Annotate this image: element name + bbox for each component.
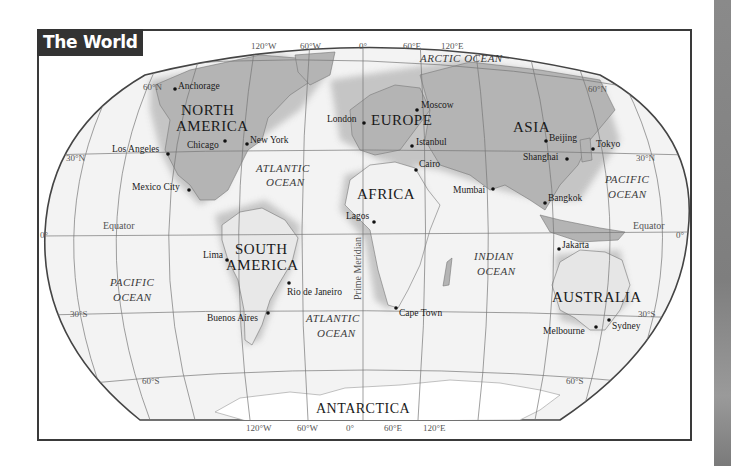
city-dot-cape-town — [394, 306, 398, 310]
equator-label-left: Equator — [103, 220, 135, 231]
lat-label-30n-right: 30°N — [636, 153, 656, 163]
city-label-new-york: New York — [250, 135, 289, 145]
city-label-shanghai: Shanghai — [523, 152, 559, 162]
city-dot-new-york — [245, 142, 249, 146]
city-dot-los-angeles — [166, 152, 170, 156]
city-label-lima: Lima — [203, 250, 224, 260]
city-label-chicago: Chicago — [187, 140, 219, 150]
city-label-sydney: Sydney — [612, 321, 641, 331]
lat-label-0-left: 0° — [40, 230, 49, 240]
city-dot-london — [362, 121, 366, 125]
equator-label-right: Equator — [633, 220, 665, 231]
lon-label-60w-top: 60°W — [300, 41, 322, 51]
lon-label-60e-top: 60°E — [403, 41, 422, 51]
continent-label-australia: AUSTRALIA — [552, 289, 642, 305]
city-label-london: London — [327, 114, 357, 124]
lat-label-0-right: 0° — [676, 230, 685, 240]
ocean-label-arctic: ARCTIC OCEAN — [419, 52, 503, 64]
city-dot-cairo — [414, 168, 418, 172]
ocean-label-atlantic-south-2: OCEAN — [317, 327, 356, 339]
lat-label-60s-right: 60°S — [566, 376, 584, 386]
city-dot-mexico-city — [187, 188, 191, 192]
city-dot-tokyo — [591, 147, 595, 151]
ocean-label-indian-1: INDIAN — [473, 250, 514, 262]
city-label-los-angeles: Los Angeles — [112, 144, 160, 154]
city-label-anchorage: Anchorage — [178, 81, 220, 91]
city-dot-sydney — [607, 318, 611, 322]
city-dot-rio-de-janeiro — [287, 281, 291, 285]
city-label-mexico-city: Mexico City — [132, 182, 180, 192]
continent-label-north-america-2: AMERICA — [176, 118, 249, 134]
city-label-rio-de-janeiro: Rio de Janeiro — [287, 287, 342, 297]
lat-label-60n-right: 60°N — [588, 84, 608, 94]
city-label-mumbai: Mumbai — [453, 185, 486, 195]
city-dot-lagos — [372, 220, 376, 224]
city-label-cape-town: Cape Town — [399, 308, 442, 318]
city-dot-lima — [225, 258, 229, 262]
continent-label-europe: EUROPE — [371, 112, 432, 128]
lat-label-30s-left: 30°S — [70, 309, 88, 319]
lon-label-120w-top: 120°W — [251, 41, 277, 51]
continent-label-asia: ASIA — [513, 119, 550, 135]
city-dot-moscow — [415, 108, 419, 112]
lon-label-60w-bottom: 60°W — [297, 423, 319, 433]
lon-label-120e-bottom: 120°E — [423, 423, 446, 433]
map-title: The World — [37, 29, 143, 56]
continent-label-africa: AFRICA — [357, 186, 415, 202]
lat-label-30n-left: 30°N — [66, 153, 86, 163]
lat-label-30s-right: 30°S — [638, 309, 656, 319]
continent-label-north-america-1: NORTH — [181, 102, 234, 118]
lon-label-60e-bottom: 60°E — [384, 423, 403, 433]
ocean-label-atlantic-south-1: ATLANTIC — [305, 312, 360, 324]
ocean-label-indian-2: OCEAN — [477, 265, 516, 277]
ocean-label-atlantic-north-2: OCEAN — [266, 176, 305, 188]
city-dot-chicago — [223, 139, 227, 143]
lon-label-120w-bottom: 120°W — [246, 423, 272, 433]
continent-label-south-america-1: SOUTH — [235, 241, 288, 257]
city-dot-anchorage — [173, 87, 177, 91]
japan-land — [580, 138, 592, 162]
city-dot-bangkok — [543, 201, 547, 205]
ocean-label-pacific-east-1: PACIFIC — [604, 173, 649, 185]
city-dot-buenos-aires — [266, 311, 270, 315]
lat-label-60s-left: 60°S — [142, 376, 160, 386]
city-dot-jakarta — [557, 247, 561, 251]
city-label-tokyo: Tokyo — [596, 139, 620, 149]
city-dot-istanbul — [410, 144, 414, 148]
ocean-label-atlantic-north-1: ATLANTIC — [255, 162, 310, 174]
lon-label-0-top: 0° — [359, 41, 368, 51]
continent-label-south-america-2: AMERICA — [226, 257, 299, 273]
ocean-label-pacific-west-1: PACIFIC — [109, 276, 154, 288]
prime-meridian-label: Prime Meridian — [352, 237, 363, 300]
city-dot-beijing — [544, 139, 548, 143]
lat-label-60n-left: 60°N — [143, 82, 163, 92]
city-label-moscow: Moscow — [421, 100, 454, 110]
city-label-istanbul: Istanbul — [416, 137, 447, 147]
lon-label-120e-top: 120°E — [441, 41, 464, 51]
world-map: 120°W 60°W 0° 60°E 120°E 120°W 60°W 0° 6… — [0, 0, 731, 466]
city-label-melbourne: Melbourne — [543, 326, 585, 336]
city-label-jakarta: Jakarta — [562, 240, 590, 250]
ocean-label-pacific-west-2: OCEAN — [113, 291, 152, 303]
ocean-label-pacific-east-2: OCEAN — [608, 188, 647, 200]
city-dot-melbourne — [594, 325, 598, 329]
city-label-cairo: Cairo — [419, 159, 440, 169]
city-label-bangkok: Bangkok — [548, 193, 583, 203]
city-label-lagos: Lagos — [346, 211, 370, 221]
city-dot-mumbai — [491, 187, 495, 191]
city-label-buenos-aires: Buenos Aires — [207, 313, 258, 323]
city-dot-shanghai — [565, 157, 569, 161]
continent-label-antarctica: ANTARCTICA — [316, 401, 410, 416]
lon-label-0-bottom: 0° — [346, 423, 355, 433]
city-label-beijing: Beijing — [549, 133, 577, 143]
